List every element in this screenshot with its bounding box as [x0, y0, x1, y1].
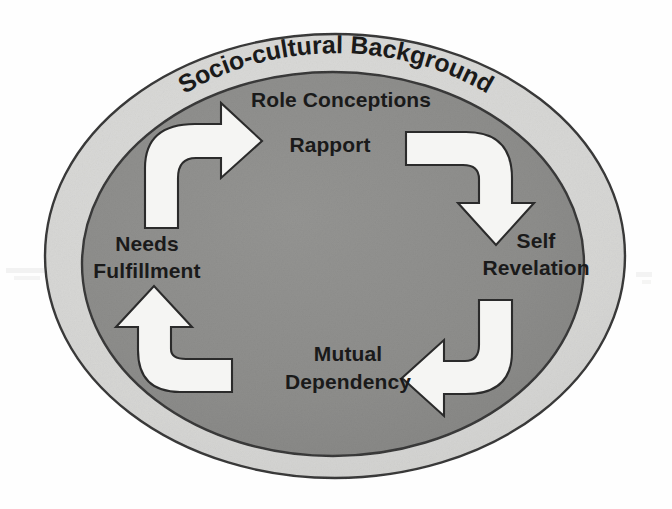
node-label-mutual-dependency-line1: Mutual	[314, 342, 382, 365]
cycle-diagram: Socio-cultural Background Role Conceptio…	[0, 0, 672, 509]
node-label-rapport: Rapport	[289, 133, 370, 156]
node-label-self-revelation-line2: Revelation	[482, 256, 589, 279]
node-label-needs-fulfillment-line1: Needs	[115, 232, 179, 255]
node-label-needs-fulfillment-line2: Fulfillment	[93, 259, 200, 282]
diagram-canvas: Socio-cultural Background Role Conceptio…	[0, 0, 672, 509]
node-label-role-conceptions: Role Conceptions	[251, 88, 431, 111]
node-label-mutual-dependency-line2: Dependency	[285, 370, 411, 393]
node-label-self-revelation-line1: Self	[517, 229, 557, 252]
